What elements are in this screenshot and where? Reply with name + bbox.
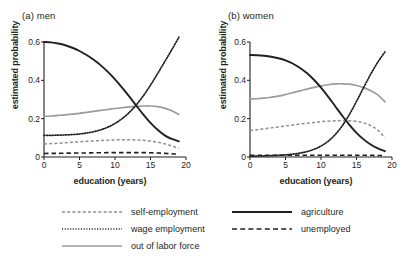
legend-line-swatch <box>232 224 292 234</box>
plot-svg-women <box>250 42 392 157</box>
plot-area-men <box>44 42 186 157</box>
legend-column-left: self-employmentwage employmentout of lab… <box>62 203 205 254</box>
series-line-wage-employment <box>44 37 179 135</box>
x-tick-label: 10 <box>316 160 325 170</box>
plot-svg-men <box>44 42 186 157</box>
series-line-agriculture <box>250 55 385 151</box>
x-tick-label: 0 <box>248 160 253 170</box>
x-tick-label: 5 <box>283 160 288 170</box>
y-tick-label: 0.2 <box>28 114 40 124</box>
x-axis-label-b: education (years) <box>236 176 396 186</box>
y-tick-label: 0.6 <box>28 37 40 47</box>
x-tick-label: 5 <box>77 160 82 170</box>
series-line-self-employment <box>250 121 385 138</box>
y-tick-label: 0.4 <box>28 75 40 85</box>
y-tick-labels-b: 00.20.40.6 <box>224 42 246 157</box>
chart-legend: self-employmentwage employmentout of lab… <box>0 203 413 263</box>
legend-item-label: unemployed <box>301 224 351 234</box>
legend-line-swatch <box>232 207 292 217</box>
panel-title-b: (b) women <box>228 10 274 21</box>
legend-line-swatch <box>62 224 122 234</box>
legend-line-swatch <box>62 207 122 217</box>
x-tick-label: 10 <box>110 160 119 170</box>
legend-item-label: out of labor force <box>131 241 199 251</box>
panel-men: (a) men estimated probability 00.20.40.6… <box>0 0 207 200</box>
y-tick-label: 0.6 <box>234 37 246 47</box>
x-tick-label: 20 <box>181 160 190 170</box>
legend-item-wage-employment[interactable]: wage employment <box>62 220 205 237</box>
x-tick-label: 20 <box>387 160 396 170</box>
legend-item-self-employment[interactable]: self-employment <box>62 203 205 220</box>
legend-item-label: wage employment <box>131 224 205 234</box>
legend-item-unemployed[interactable]: unemployed <box>232 220 351 237</box>
legend-item-label: self-employment <box>131 207 198 217</box>
panel-title-a: (a) men <box>22 10 55 21</box>
y-tick-labels-a: 00.20.40.6 <box>18 42 40 157</box>
legend-column-right: agricultureunemployed <box>232 203 351 237</box>
figure-container: (a) men estimated probability 00.20.40.6… <box>0 0 413 263</box>
legend-item-label: agriculture <box>301 207 344 217</box>
y-tick-label: 0 <box>241 152 246 162</box>
legend-item-out-of-labor-force[interactable]: out of labor force <box>62 237 205 254</box>
x-tick-label: 15 <box>352 160 361 170</box>
series-line-agriculture <box>44 42 179 141</box>
x-tick-labels-a: 05101520 <box>44 160 186 174</box>
x-axis-label-a: education (years) <box>30 176 190 186</box>
y-tick-label: 0.2 <box>234 114 246 124</box>
y-tick-label: 0.4 <box>234 75 246 85</box>
x-tick-labels-b: 05101520 <box>250 160 392 174</box>
series-line-self-employment <box>44 140 179 149</box>
legend-item-agriculture[interactable]: agriculture <box>232 203 351 220</box>
plot-area-women <box>250 42 392 157</box>
x-tick-label: 15 <box>146 160 155 170</box>
panel-women: (b) women estimated probability 00.20.40… <box>206 0 413 200</box>
legend-line-swatch <box>62 241 122 251</box>
y-tick-label: 0 <box>35 152 40 162</box>
series-line-unemployed <box>44 153 179 155</box>
x-tick-label: 0 <box>42 160 47 170</box>
series-line-out-of-labor-force <box>44 106 179 116</box>
